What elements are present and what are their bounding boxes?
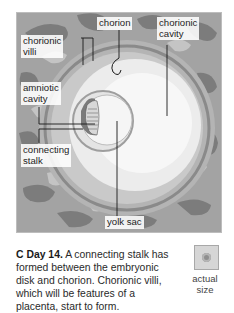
label-amniotic-cavity: amniotic cavity [21,82,61,105]
label-chorionic-cavity: chorionic cavity [157,17,199,40]
figure-caption: C Day 14. A connecting stalk has formed … [16,248,176,313]
label-connecting-stalk: connecting stalk [21,144,71,167]
label-chorion: chorion [97,17,132,30]
actual-size-embryo-dot [202,253,211,262]
caption-day: Day 14. [26,249,62,260]
day14-embryo-illustration: chorionic villi chorion chorionic cavity… [16,12,222,233]
caption-letter: C [16,249,24,260]
actual-size-thumbnail [194,245,219,270]
label-chorionic-villi: chorionic villi [21,35,63,58]
label-yolk-sac: yolk sac [105,216,144,229]
actual-size-label: actual size [184,273,226,295]
